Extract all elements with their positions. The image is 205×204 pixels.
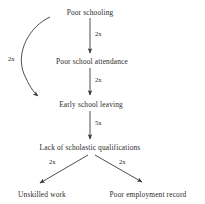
node-unskilled-work: Unskilled work (18, 190, 66, 199)
edge-label-lack-of-scholastic-qualifications-to-poor-employment-record: 2x (119, 158, 126, 166)
edge-lack-of-scholastic-qualifications-to-unskilled-work (40, 155, 88, 183)
node-early-school-leaving: Early school leaving (59, 100, 123, 109)
node-lack-of-scholastic-qualifications: Lack of scholastic qualifications (40, 143, 141, 152)
node-poor-employment-record: Poor employment record (110, 190, 187, 199)
node-poor-schooling: Poor schooling (67, 8, 114, 17)
edge-label-poor-schooling-to-poor-school-attendance: 2x (95, 30, 102, 38)
edge-label-lack-of-scholastic-qualifications-to-unskilled-work: 2x (49, 158, 56, 166)
edge-label-poor-schooling-to-early-school-leaving: 2x (8, 55, 15, 63)
edge-label-early-school-leaving-to-lack-of-scholastic-qualifications: 5x (95, 119, 102, 127)
edge-label-poor-school-attendance-to-early-school-leaving: 2x (95, 76, 102, 84)
node-poor-school-attendance: Poor school attendance (56, 57, 128, 66)
flowchart-diagram: Poor schooling Poor school attendance Ea… (0, 0, 205, 204)
edge-poor-schooling-to-early-school-leaving-curved (21, 17, 50, 96)
